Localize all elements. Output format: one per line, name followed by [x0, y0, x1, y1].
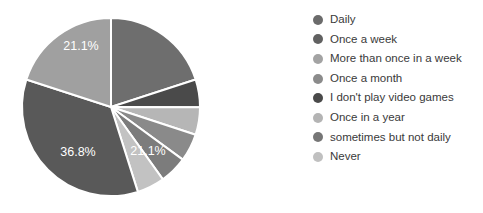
pie-slices-group [22, 18, 200, 196]
pie-chart-svg: 36.8%21.1%21.1% [0, 0, 300, 213]
pie-slice-value-label: 21.1% [130, 144, 165, 158]
legend-item-label: Once a month [330, 73, 402, 85]
legend-swatch-icon [313, 15, 323, 25]
legend-item[interactable]: More than once in a week [313, 49, 483, 69]
legend-swatch-icon [313, 132, 323, 142]
pie-slice-value-label: 36.8% [60, 145, 95, 159]
legend-item[interactable]: Never [313, 147, 483, 167]
pie-chart-area: 36.8%21.1%21.1% [0, 0, 300, 213]
legend-swatch-icon [313, 93, 323, 103]
legend-item[interactable]: sometimes but not daily [313, 128, 483, 148]
legend-item[interactable]: I don't play video games [313, 88, 483, 108]
legend-item-label: sometimes but not daily [330, 132, 451, 144]
legend-item-label: I don't play video games [330, 92, 454, 104]
pie-slice-value-label: 21.1% [63, 39, 98, 53]
legend-item-label: Never [330, 151, 361, 163]
legend-item-label: Daily [330, 14, 356, 26]
legend-item-label: Once in a year [330, 112, 405, 124]
legend-item[interactable]: Daily [313, 10, 483, 30]
legend-item-label: More than once in a week [330, 53, 462, 65]
legend-swatch-icon [313, 152, 323, 162]
legend-swatch-icon [313, 113, 323, 123]
legend-swatch-icon [313, 34, 323, 44]
pie-chart-figure: 36.8%21.1%21.1% DailyOnce a weekMore tha… [0, 0, 483, 213]
legend-item[interactable]: Once in a year [313, 108, 483, 128]
legend-swatch-icon [313, 74, 323, 84]
legend-item-label: Once a week [330, 34, 397, 46]
legend-item[interactable]: Once a week [313, 30, 483, 50]
legend-item[interactable]: Once a month [313, 69, 483, 89]
legend-swatch-icon [313, 54, 323, 64]
chart-legend: DailyOnce a weekMore than once in a week… [313, 10, 483, 167]
